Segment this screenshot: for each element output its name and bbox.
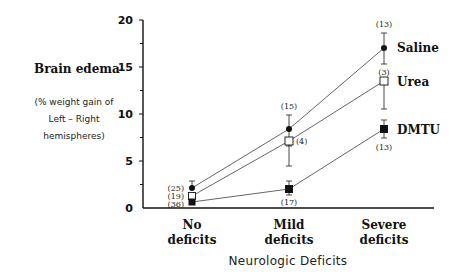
error-bars — [189, 33, 387, 195]
category-line: deficits — [344, 233, 424, 248]
y-tick-label: 0 — [125, 202, 133, 215]
saline-marker — [381, 45, 387, 51]
x-axis-title: Neurologic Deficits — [0, 254, 456, 268]
saline-marker — [189, 185, 195, 191]
n-label: (36) — [168, 200, 184, 209]
x-category-mild-deficits: Mild deficits — [249, 218, 329, 248]
dmtu-marker — [380, 125, 388, 133]
urea-marker — [380, 77, 388, 85]
n-label: (17) — [281, 198, 297, 207]
n-label: (15) — [281, 102, 297, 111]
dmtu-marker — [189, 199, 196, 206]
y-tick-label: 10 — [118, 108, 134, 121]
category-line: No — [152, 218, 232, 233]
saline-marker — [286, 126, 292, 132]
urea-marker — [285, 137, 293, 145]
urea-marker — [189, 193, 196, 200]
y-tick-label: 20 — [118, 14, 134, 27]
n-label: (4) — [296, 137, 307, 146]
y-tick-label: 15 — [118, 61, 133, 74]
category-line: Mild — [249, 218, 329, 233]
n-label: (13) — [376, 143, 392, 152]
category-line: Severe — [344, 218, 424, 233]
series-label-urea: Urea — [397, 75, 429, 89]
series-label-saline: Saline — [397, 41, 439, 55]
y-tick-label: 5 — [125, 155, 133, 168]
series-label-dmtu: DMTU — [397, 123, 441, 137]
n-label: (13) — [376, 20, 392, 29]
x-category-severe-deficits: Severe deficits — [344, 218, 424, 248]
x-category-no-deficits: No deficits — [152, 218, 232, 248]
category-line: deficits — [152, 233, 232, 248]
n-label: (3) — [378, 68, 389, 77]
dmtu-marker — [285, 185, 293, 193]
category-line: deficits — [249, 233, 329, 248]
saline-line — [192, 48, 384, 188]
